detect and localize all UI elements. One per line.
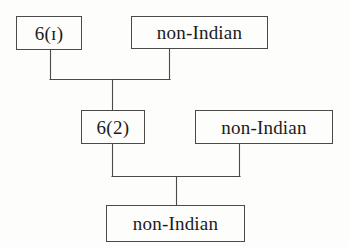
node-gen1-left: 6(ɪ): [16, 16, 82, 50]
node-gen2-left: 6(2): [81, 110, 145, 144]
node-gen3-label: non-Indian: [133, 214, 218, 233]
node-gen1-right-label: non-Indian: [157, 23, 242, 42]
node-gen1-right: non-Indian: [131, 16, 268, 49]
node-gen3: non-Indian: [106, 205, 245, 242]
node-gen2-right-label: non-Indian: [221, 118, 306, 137]
diagram-canvas: 6(ɪ) non-Indian 6(2) non-Indian non-Indi…: [0, 0, 349, 247]
node-gen1-left-label: 6(ɪ): [35, 24, 64, 43]
node-gen2-right: non-Indian: [195, 110, 333, 144]
node-gen2-left-label: 6(2): [97, 118, 130, 137]
